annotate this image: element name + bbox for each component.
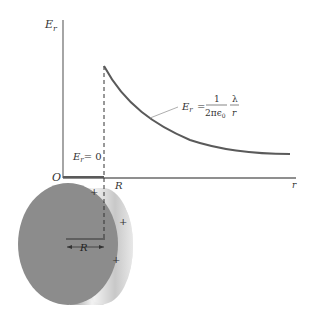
- charge-plus: +: [119, 216, 127, 227]
- x-axis-label: r: [292, 180, 297, 190]
- charge-plus: +: [112, 254, 120, 265]
- svg-text:1: 1: [214, 94, 220, 104]
- origin-label: O: [52, 171, 61, 184]
- radius-label: R: [79, 242, 88, 253]
- r-tick-label: R: [114, 180, 123, 191]
- charged-cylinder: R + + +: [18, 183, 133, 305]
- formula-leader-line: [150, 107, 178, 118]
- svg-text:r: r: [232, 108, 237, 118]
- cylinder-face: [18, 183, 118, 305]
- charge-plus: +: [90, 186, 98, 197]
- field-formula: Er = 1 2πϵ0 λ r: [181, 94, 239, 119]
- svg-text:Er: Er: [181, 101, 193, 114]
- field-diagram: R + + + Er O R r Er= 0 Er = 1 2πϵ0 λ r: [0, 0, 314, 311]
- y-axis-label: Er: [44, 18, 58, 33]
- svg-text:2πϵ0: 2πϵ0: [205, 108, 226, 119]
- inside-field-label: Er= 0: [72, 151, 102, 164]
- svg-text:λ: λ: [232, 94, 238, 104]
